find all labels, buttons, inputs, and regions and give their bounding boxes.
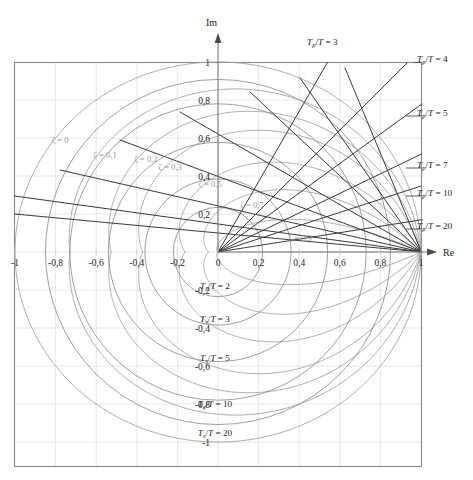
y-tick-label: -0,4 (195, 324, 210, 334)
peak-time-label: Tp/T = 5 (417, 108, 448, 119)
real-axis-label: Re (443, 247, 455, 258)
x-tick-label: -0,4 (129, 258, 144, 268)
damping-ratio-label: ζ = 0,3 (158, 162, 181, 172)
y-tick-label: 0,2 (198, 210, 210, 220)
peak-time-label: Tp/T = 3 (307, 37, 338, 48)
damping-ratio-label: ζ = 0,2 (134, 154, 157, 164)
peak-time-label: Tp/T = 7 (417, 160, 448, 171)
settling-time-label: Ts/T = 5 (200, 353, 230, 364)
x-tick-label: 0,4 (293, 258, 305, 268)
x-tick-label: -0,2 (170, 258, 185, 268)
y-tick-label: 0,6 (198, 134, 210, 144)
y-tick-label: -0,6 (195, 362, 210, 372)
x-tick-label: -0,6 (89, 258, 104, 268)
y-tick-label: 0,8 (198, 96, 210, 106)
x-tick-label: -0,8 (48, 258, 63, 268)
settling-time-label: Ts/T = 3 (200, 314, 230, 325)
peak-time-label: Tp/T = 4 (417, 54, 448, 65)
x-tick-label: 0,2 (253, 258, 265, 268)
damping-ratio-label: ζ = 0,5 (198, 179, 221, 189)
x-tick-label: 1 (419, 258, 424, 268)
settling-time-label: Ts/T = 2 (200, 281, 230, 292)
damping-ratio-label: ζ = 0 (52, 135, 69, 145)
figure-background (0, 0, 473, 480)
z-plane-grid-figure: -1-0,8-0,6-0,4-0,200,20,40,60,8110,80,60… (0, 0, 473, 480)
chart-canvas: -1-0,8-0,6-0,4-0,200,20,40,60,8110,80,60… (0, 0, 473, 480)
damping-ratio-label: ζ = 0,7 (240, 200, 264, 210)
imaginary-axis-label: Im (206, 17, 217, 28)
x-tick-label: 0,8 (374, 258, 386, 268)
damping-ratio-label: ζ = 0,1 (93, 150, 116, 160)
x-tick-label: 0 (216, 258, 221, 268)
damping-ratio-label: ζ = 0,9 (288, 233, 311, 243)
x-tick-label: -1 (11, 258, 19, 268)
x-tick-label: 0,6 (334, 258, 346, 268)
y-tick-label: 1 (205, 58, 210, 68)
